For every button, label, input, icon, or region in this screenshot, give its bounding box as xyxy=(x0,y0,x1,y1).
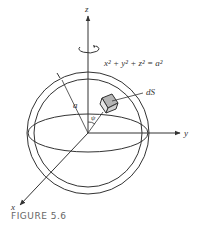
surface-element-label: dS xyxy=(146,87,156,97)
z-axis-label: z xyxy=(84,4,89,14)
y-axis-label: y xyxy=(183,128,188,138)
surface-element xyxy=(100,94,118,113)
sphere-equation: x² + y² + z² = a² xyxy=(103,58,163,68)
x-axis xyxy=(20,133,88,205)
radius-label: a xyxy=(73,100,78,110)
angle-label: ψ xyxy=(91,114,96,122)
angle-arc xyxy=(88,122,95,124)
ds-pointer xyxy=(112,93,143,101)
sphere-diagram: z y x a dS ψ x² + y² + z² = a² xyxy=(0,0,199,225)
figure-caption: FIGURE 5.6 xyxy=(11,211,67,221)
thickness-marker xyxy=(57,73,60,78)
rotation-arrow-icon xyxy=(79,46,99,53)
